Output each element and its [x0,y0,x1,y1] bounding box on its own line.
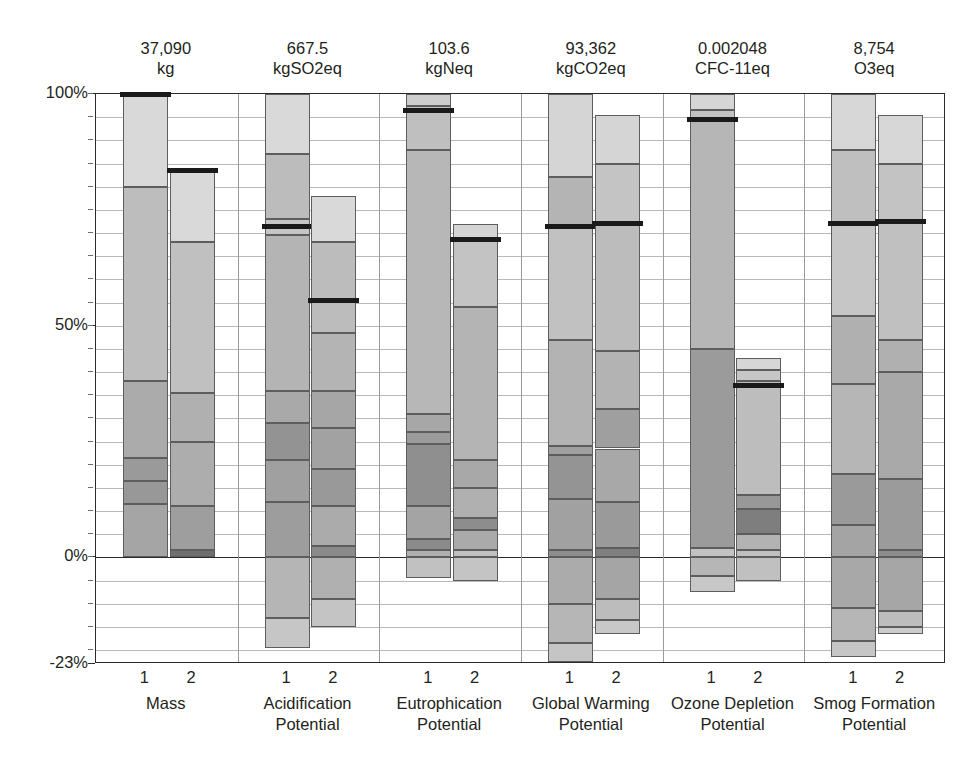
bar-segment[interactable] [265,557,310,617]
bar-segment[interactable] [453,240,498,307]
bar-segment[interactable] [406,506,451,538]
bar-segment[interactable] [878,372,923,479]
bar-segment[interactable] [170,170,215,242]
stacked-bar[interactable] [548,94,593,662]
bar-segment[interactable] [690,119,735,348]
bar-segment[interactable] [878,611,923,627]
stacked-bar[interactable] [406,94,451,578]
bar-segment[interactable] [265,423,310,460]
bar-segment[interactable] [736,381,781,495]
stacked-bar[interactable] [831,94,876,657]
bar-segment[interactable] [548,604,593,643]
bar-segment[interactable] [406,94,451,106]
bar-segment[interactable] [123,381,168,457]
bar-segment[interactable] [406,550,451,557]
bar-segment[interactable] [311,333,356,391]
bar-segment[interactable] [831,557,876,608]
bar-segment[interactable] [878,479,923,551]
bar-segment[interactable] [548,455,593,499]
bar-segment[interactable] [311,428,356,470]
bar-segment[interactable] [453,460,498,488]
stacked-bar[interactable] [878,115,923,634]
bar-segment[interactable] [548,177,593,226]
bar-segment[interactable] [878,340,923,372]
bar-segment[interactable] [123,504,168,557]
bar-segment[interactable] [453,530,498,551]
bar-segment[interactable] [548,499,593,550]
bar-segment[interactable] [878,221,923,339]
bar-segment[interactable] [831,384,876,474]
bar-segment[interactable] [170,442,215,507]
bar-segment[interactable] [311,242,356,332]
bar-segment[interactable] [123,458,168,481]
bar-segment[interactable] [311,506,356,545]
bar-segment[interactable] [406,539,451,551]
bar-segment[interactable] [453,557,498,580]
bar-segment[interactable] [123,94,168,187]
stacked-bar[interactable] [123,94,168,557]
bar-segment[interactable] [595,548,640,557]
bar-segment[interactable] [736,370,781,382]
bar-segment[interactable] [170,393,215,442]
stacked-bar[interactable] [690,94,735,592]
bar-segment[interactable] [878,627,923,634]
bar-segment[interactable] [595,164,640,224]
bar-segment[interactable] [736,509,781,534]
bar-segment[interactable] [406,432,451,444]
bar-segment[interactable] [831,641,876,657]
bar-segment[interactable] [690,94,735,110]
bar-segment[interactable] [690,349,735,548]
bar-segment[interactable] [831,608,876,640]
stacked-bar[interactable] [453,224,498,581]
bar-segment[interactable] [595,351,640,409]
bar-segment[interactable] [831,525,876,557]
bar-segment[interactable] [548,550,593,557]
stacked-bar[interactable] [311,196,356,627]
bar-segment[interactable] [595,599,640,620]
bar-segment[interactable] [548,446,593,455]
bar-segment[interactable] [736,557,781,580]
bar-segment[interactable] [548,94,593,177]
bar-segment[interactable] [595,224,640,351]
bar-segment[interactable] [595,115,640,164]
bar-segment[interactable] [311,599,356,627]
bar-segment[interactable] [595,557,640,599]
bar-segment[interactable] [595,449,640,502]
bar-segment[interactable] [878,164,923,222]
bar-segment[interactable] [831,94,876,150]
bar-segment[interactable] [265,391,310,423]
bar-segment[interactable] [453,307,498,460]
bar-segment[interactable] [170,242,215,393]
bar-segment[interactable] [311,196,356,242]
bar-segment[interactable] [831,474,876,525]
bar-segment[interactable] [548,340,593,447]
bar-segment[interactable] [831,150,876,224]
bar-segment[interactable] [548,226,593,340]
bar-segment[interactable] [311,557,356,599]
bar-segment[interactable] [123,481,168,504]
bar-segment[interactable] [878,550,923,557]
bar-segment[interactable] [548,557,593,603]
bar-segment[interactable] [690,576,735,592]
bar-segment[interactable] [736,550,781,557]
bar-segment[interactable] [453,550,498,557]
bar-segment[interactable] [406,150,451,414]
bar-segment[interactable] [878,557,923,610]
bar-segment[interactable] [595,502,640,548]
bar-segment[interactable] [265,502,310,558]
bar-segment[interactable] [736,495,781,509]
bar-segment[interactable] [406,444,451,507]
bar-segment[interactable] [311,391,356,428]
bar-segment[interactable] [265,94,310,154]
bar-segment[interactable] [170,506,215,550]
bar-segment[interactable] [690,548,735,557]
bar-segment[interactable] [311,546,356,558]
bar-segment[interactable] [311,469,356,506]
bar-segment[interactable] [831,224,876,317]
bar-segment[interactable] [406,414,451,433]
bar-segment[interactable] [831,316,876,383]
bar-segment[interactable] [265,460,310,502]
bar-segment[interactable] [123,187,168,382]
stacked-bar[interactable] [595,115,640,634]
bar-segment[interactable] [548,643,593,662]
